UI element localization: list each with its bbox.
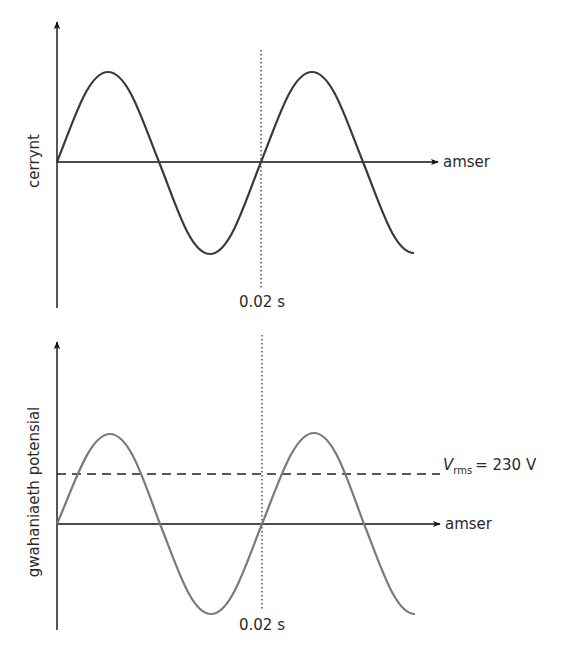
top-time-marker-label: 0.02 s (239, 293, 285, 311)
top-sine-curve (57, 72, 414, 254)
rms-label: Vrms= 230 V (443, 456, 537, 476)
bottom-graph: gwahaniaeth potensial amser 0.02 s Vrms=… (25, 335, 537, 634)
rms-value: = 230 V (475, 456, 537, 474)
bottom-y-label: gwahaniaeth potensial (25, 407, 43, 578)
rms-subscript: rms (453, 465, 472, 476)
bottom-x-label: amser (445, 515, 493, 533)
bottom-time-marker-label: 0.02 s (239, 616, 285, 634)
top-y-label: cerrynt (25, 134, 43, 188)
top-x-label: amser (443, 153, 491, 171)
top-graph: cerrynt amser 0.02 s (25, 22, 491, 311)
diagram-canvas: cerrynt amser 0.02 s gwahaniaeth potensi… (0, 0, 568, 664)
